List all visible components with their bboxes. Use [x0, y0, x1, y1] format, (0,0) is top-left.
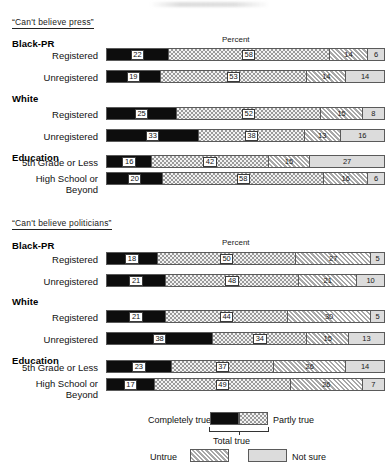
- segment-value: 14: [361, 73, 369, 81]
- segment-value: 17: [124, 380, 137, 390]
- row-label-line2: Beyond: [66, 184, 98, 195]
- bar-press-5th-grade-or-less[interactable]: 16 42 15 27: [106, 155, 385, 168]
- segment-value: 21: [129, 276, 142, 286]
- segment-value: 5: [375, 313, 379, 321]
- segment-value: 53: [227, 72, 240, 82]
- legend-swatch-not-sure: [248, 449, 287, 462]
- segment-untrue: 27: [295, 253, 370, 264]
- row-label-5th-grade-or-less-2: 5th Grade or Less: [0, 363, 98, 374]
- segment-value: 58: [242, 50, 255, 60]
- segment-value: 18: [125, 254, 138, 264]
- segment-untrue: 30: [287, 311, 370, 322]
- segment-value: 26: [306, 363, 314, 371]
- segment-value: 20: [128, 174, 141, 184]
- segment-partly-true: 58: [162, 173, 323, 184]
- row-label-line1: High School or: [36, 378, 98, 389]
- segment-not-sure: 8: [362, 108, 384, 119]
- bar-politicians-black-pr-registered[interactable]: 18 50 27 5: [106, 252, 385, 265]
- bar-press-white-unregistered[interactable]: 33 38 13 16: [106, 129, 385, 142]
- legend-swatch-partly-true: [239, 412, 268, 425]
- segment-not-sure: 10: [356, 275, 384, 286]
- segment-value: 27: [343, 158, 351, 166]
- segment-value: 37: [216, 362, 229, 372]
- segment-completely-true: 25: [107, 108, 176, 119]
- segment-untrue: 15: [320, 108, 362, 119]
- segment-untrue: 21: [298, 275, 356, 286]
- segment-value: 14: [361, 363, 369, 371]
- segment-value: 8: [371, 110, 375, 118]
- segment-value: 6: [374, 51, 378, 59]
- segment-value: 34: [253, 334, 266, 344]
- segment-completely-true: 19: [107, 71, 160, 82]
- bar-press-black-pr-registered[interactable]: 22 58 14 6: [106, 48, 385, 61]
- segment-value: 21: [324, 277, 332, 285]
- segment-partly-true: 44: [165, 311, 287, 322]
- segment-completely-true: 20: [107, 173, 162, 184]
- segment-value: 14: [322, 73, 330, 81]
- segment-value: 21: [129, 312, 142, 322]
- bar-politicians-5th-grade-or-less[interactable]: 23 37 26 14: [106, 360, 385, 373]
- bar-politicians-black-pr-unregistered[interactable]: 21 48 21 10: [106, 274, 385, 287]
- row-label-white-registered-2: Registered: [0, 313, 98, 324]
- legend-swatch-untrue: [190, 449, 229, 462]
- segment-value: 30: [325, 313, 333, 321]
- segment-value: 44: [220, 312, 233, 322]
- segment-value: 19: [127, 72, 140, 82]
- segment-value: 58: [237, 174, 250, 184]
- row-label-black-pr-registered-2: Registered: [0, 255, 98, 266]
- segment-untrue: 26: [290, 379, 362, 390]
- segment-value: 15: [285, 158, 293, 166]
- segment-value: 16: [342, 175, 350, 183]
- segment-partly-true: 53: [160, 71, 307, 82]
- segment-completely-true: 17: [107, 379, 154, 390]
- segment-value: 33: [146, 131, 159, 141]
- segment-not-sure: 7: [362, 379, 384, 390]
- row-label-white-unregistered: Unregistered: [0, 132, 98, 143]
- segment-value: 15: [324, 335, 332, 343]
- segment-value: 5: [375, 255, 379, 263]
- legend-label-partly-true: Partly true: [273, 415, 314, 425]
- segment-value: 7: [371, 381, 375, 389]
- bar-politicians-high-school-or-beyond[interactable]: 17 49 26 7: [106, 378, 385, 391]
- bar-press-high-school-or-beyond[interactable]: 20 58 16 6: [106, 172, 385, 185]
- legend-label-untrue: Untrue: [150, 452, 177, 462]
- segment-value: 13: [318, 132, 326, 140]
- segment-completely-true: 38: [107, 333, 212, 344]
- segment-partly-true: 48: [165, 275, 298, 286]
- legend-label-not-sure: Not sure: [292, 452, 326, 462]
- segment-value: 26: [322, 381, 330, 389]
- segment-partly-true: 49: [154, 379, 290, 390]
- row-label-white-unregistered-2: Unregistered: [0, 335, 98, 346]
- axis-label-percent: Percent: [222, 35, 250, 44]
- group-heading-white-2: White: [12, 296, 38, 307]
- row-label-white-registered: Registered: [0, 110, 98, 121]
- segment-value: 23: [132, 362, 145, 372]
- segment-completely-true: 33: [107, 130, 198, 141]
- segment-partly-true: 42: [151, 156, 267, 167]
- segment-partly-true: 38: [198, 130, 303, 141]
- bar-press-black-pr-unregistered[interactable]: 19 53 14 14: [106, 70, 385, 83]
- row-label-high-school-or-beyond: High School or Beyond: [0, 174, 98, 195]
- bar-politicians-white-unregistered[interactable]: 38 34 15 13: [106, 332, 385, 345]
- panel-title-press: “Can't believe press”: [12, 17, 94, 29]
- bar-press-white-registered[interactable]: 25 52 15 8: [106, 107, 385, 120]
- segment-value: 22: [131, 50, 144, 60]
- row-label-line2: Beyond: [66, 389, 98, 400]
- segment-not-sure: 5: [370, 311, 384, 322]
- axis-label-percent-2: Percent: [222, 238, 250, 247]
- row-label-line1: High School or: [36, 173, 98, 184]
- legend-swatch-completely-true: [210, 412, 239, 425]
- panel-title-politicians: “Can't believe politicians”: [12, 218, 112, 230]
- segment-value: 27: [329, 255, 337, 263]
- segment-untrue: 13: [304, 130, 340, 141]
- bar-politicians-white-registered[interactable]: 21 44 30 5: [106, 310, 385, 323]
- page-header-artifact: [150, 2, 270, 7]
- segment-value: 50: [220, 254, 233, 264]
- legend-label-completely-true: Completely true: [148, 415, 211, 425]
- segment-untrue: 14: [329, 49, 368, 60]
- segment-not-sure: 5: [370, 253, 384, 264]
- segment-untrue: 15: [306, 333, 348, 344]
- segment-value: 42: [203, 157, 216, 167]
- segment-untrue: 15: [268, 156, 310, 167]
- segment-value: 38: [245, 131, 258, 141]
